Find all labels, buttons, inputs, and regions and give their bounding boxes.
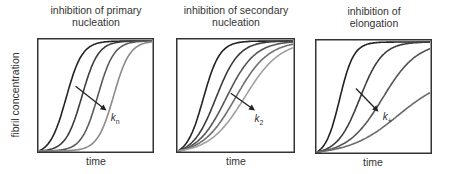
y-axis-label: fibril concentration	[9, 45, 21, 145]
curve-5	[178, 48, 293, 151]
panel-1-x-axis-label: time	[76, 155, 116, 167]
panel-2-title-line-2: nucleation	[168, 16, 304, 28]
panel-2-title-line-1: inhibition of secondary	[168, 4, 304, 16]
panel-1-title: inhibition of primary nucleation	[30, 4, 162, 28]
panel-2-plot: k2	[176, 38, 295, 153]
panel-3-title-line-2: elongation	[310, 17, 438, 29]
panel-2-title: inhibition of secondary nucleation	[168, 4, 304, 28]
panel-3-title: inhibition of elongation	[310, 5, 438, 29]
arrowhead-icon	[248, 105, 255, 111]
rate-constant-label: k+	[383, 111, 392, 124]
arrow-icon	[76, 86, 105, 109]
rate-constant-label: k2	[255, 113, 264, 126]
panel-3-x-axis-label: time	[353, 156, 393, 168]
panel-3-title-line-1: inhibition of	[310, 5, 438, 17]
panel-1-plot: kn	[37, 38, 154, 153]
panel-2-x-axis-label: time	[216, 155, 256, 167]
panel-1-title-line-1: inhibition of primary	[30, 4, 162, 16]
plot-frame	[177, 39, 295, 153]
curve-4	[178, 44, 293, 151]
panel-1-title-line-2: nucleation	[30, 16, 162, 28]
plot-frame	[38, 39, 154, 153]
rate-constant-label: kn	[111, 112, 120, 125]
curve-2	[39, 41, 152, 151]
curve-3	[317, 49, 430, 152]
panel-3-plot: k+	[315, 39, 432, 154]
